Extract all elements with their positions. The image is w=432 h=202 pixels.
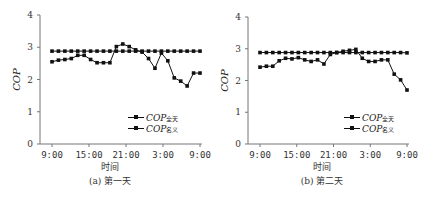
y-tick-label: 4 bbox=[27, 10, 33, 20]
data-point-marker bbox=[121, 49, 125, 53]
chart-legend: COP全天 COP名义 bbox=[344, 112, 394, 134]
legend-label: COP全天 bbox=[362, 113, 394, 123]
data-point-marker bbox=[192, 71, 196, 75]
data-point-marker bbox=[108, 49, 112, 53]
legend-marker-icon bbox=[344, 117, 360, 118]
x-tick-label: 9:00 bbox=[396, 150, 418, 160]
x-tick-label: 9:00 bbox=[41, 150, 63, 160]
data-point-marker bbox=[258, 51, 262, 55]
data-point-marker bbox=[82, 49, 86, 53]
data-point-marker bbox=[316, 51, 320, 55]
data-point-marker bbox=[185, 84, 189, 88]
data-point-marker bbox=[380, 58, 384, 62]
data-point-marker bbox=[297, 51, 301, 55]
data-point-marker bbox=[265, 64, 269, 68]
data-point-marker bbox=[172, 49, 176, 53]
data-point-marker bbox=[63, 58, 67, 62]
data-point-marker bbox=[271, 51, 275, 55]
legend-item-cop-nominal: COP名义 bbox=[128, 123, 178, 134]
y-tick-label: 2 bbox=[235, 76, 241, 86]
legend-item-cop-allday: COP全天 bbox=[128, 112, 178, 123]
data-point-marker bbox=[82, 54, 86, 58]
x-tick-label: 9:00 bbox=[189, 150, 211, 160]
y-tick-label: 1 bbox=[235, 107, 241, 117]
data-point-marker bbox=[271, 64, 275, 68]
data-point-marker bbox=[354, 48, 358, 52]
data-point-marker bbox=[70, 49, 74, 53]
data-point-marker bbox=[303, 58, 307, 62]
data-point-marker bbox=[367, 51, 371, 55]
y-tick-label: 4 bbox=[235, 12, 241, 22]
data-point-marker bbox=[392, 72, 396, 76]
x-tick-label: 15:00 bbox=[283, 150, 310, 160]
data-point-marker bbox=[373, 51, 377, 55]
data-point-marker bbox=[95, 49, 99, 53]
y-axis-label: COP bbox=[11, 68, 22, 91]
data-point-marker bbox=[405, 51, 409, 55]
y-tick-label: 2 bbox=[27, 75, 33, 85]
legend-marker-icon bbox=[128, 128, 144, 129]
data-point-marker bbox=[57, 49, 61, 53]
legend-label: COP名义 bbox=[146, 124, 178, 134]
data-point-marker bbox=[102, 61, 106, 65]
data-point-marker bbox=[277, 51, 281, 55]
data-point-marker bbox=[322, 51, 326, 55]
data-point-marker bbox=[290, 51, 294, 55]
data-point-marker bbox=[360, 51, 364, 55]
data-point-marker bbox=[121, 42, 125, 46]
data-point-marker bbox=[386, 58, 390, 62]
data-point-marker bbox=[115, 45, 119, 49]
x-axis-label: 时间 bbox=[10, 160, 210, 173]
data-point-marker bbox=[316, 58, 320, 62]
data-point-marker bbox=[166, 49, 170, 53]
legend-item-cop-allday: COP全天 bbox=[344, 112, 394, 123]
y-tick-label: 1 bbox=[27, 107, 33, 117]
x-tick-label: 21:00 bbox=[112, 150, 139, 160]
data-point-marker bbox=[367, 60, 371, 64]
y-tick-label: 3 bbox=[27, 42, 33, 52]
data-point-marker bbox=[63, 49, 67, 53]
data-point-marker bbox=[405, 88, 409, 92]
data-point-marker bbox=[290, 57, 294, 61]
data-point-marker bbox=[284, 51, 288, 55]
chart-panel-day1: 01234COP9:0015:0021:003:009:00 COP全天 COP… bbox=[0, 0, 216, 202]
data-point-marker bbox=[309, 60, 313, 64]
data-point-marker bbox=[127, 49, 131, 53]
data-point-marker bbox=[392, 51, 396, 55]
data-point-marker bbox=[386, 51, 390, 55]
data-point-marker bbox=[198, 49, 202, 53]
data-point-marker bbox=[277, 59, 281, 63]
y-axis-label: COP bbox=[219, 69, 230, 92]
legend-marker-icon bbox=[128, 117, 144, 118]
data-point-marker bbox=[360, 56, 364, 60]
legend-label: COP名义 bbox=[362, 124, 394, 134]
chart-panel-day2: 01234COP9:0015:0021:003:009:00 COP全天 COP… bbox=[216, 0, 432, 202]
data-point-marker bbox=[140, 49, 144, 53]
y-tick-label: 3 bbox=[235, 44, 241, 54]
data-point-marker bbox=[335, 51, 339, 55]
chart-legend: COP全天 COP名义 bbox=[128, 112, 178, 134]
data-point-marker bbox=[399, 51, 403, 55]
data-point-marker bbox=[373, 60, 377, 64]
data-point-marker bbox=[127, 45, 131, 49]
data-point-marker bbox=[329, 51, 333, 55]
data-point-marker bbox=[108, 61, 112, 65]
legend-label: COP全天 bbox=[146, 113, 178, 123]
series-line-cop-allday bbox=[260, 49, 407, 90]
data-point-marker bbox=[284, 56, 288, 60]
data-point-marker bbox=[297, 56, 301, 60]
data-point-marker bbox=[258, 65, 262, 69]
data-point-marker bbox=[348, 51, 352, 55]
data-point-marker bbox=[50, 49, 54, 53]
data-point-marker bbox=[115, 49, 119, 53]
y-tick-label: 0 bbox=[27, 139, 33, 149]
data-point-marker bbox=[76, 54, 80, 58]
data-point-marker bbox=[147, 57, 151, 61]
x-tick-label: 21:00 bbox=[320, 150, 347, 160]
data-point-marker bbox=[50, 60, 54, 64]
x-tick-label: 3:00 bbox=[359, 150, 381, 160]
data-point-marker bbox=[166, 59, 170, 63]
data-point-marker bbox=[179, 49, 183, 53]
x-tick-label: 15:00 bbox=[75, 150, 102, 160]
data-point-marker bbox=[309, 51, 313, 55]
